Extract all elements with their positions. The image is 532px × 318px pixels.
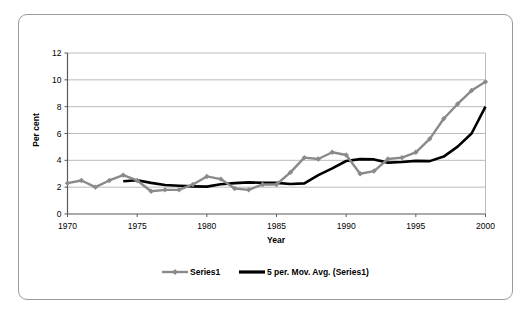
y-tick-labels: 024681012	[52, 48, 62, 219]
y-tick-label: 6	[57, 129, 62, 139]
x-tick-label: 1970	[58, 221, 77, 231]
legend-label: Series1	[190, 267, 221, 277]
y-tick-label: 10	[52, 75, 62, 85]
series-series1	[68, 82, 486, 191]
chart-legend: Series15 per. Mov. Avg. (Series1)	[162, 267, 369, 277]
x-tick-label: 1985	[267, 221, 286, 231]
legend-item[interactable]: Series1	[162, 267, 221, 277]
series1-marker	[65, 180, 70, 185]
y-tick-label: 12	[52, 48, 62, 58]
screenshot-root: 024681012 1970197519801985199019952000 P…	[0, 0, 532, 318]
x-tick-label: 1980	[197, 221, 216, 231]
legend-label: 5 per. Mov. Avg. (Series1)	[267, 267, 369, 277]
gridlines	[68, 53, 486, 187]
series-moving-average	[123, 107, 485, 187]
legend-marker-diamond	[172, 269, 178, 275]
y-tick-label: 4	[57, 155, 62, 165]
y-axis-title: Per cent	[31, 113, 41, 147]
x-tick-labels: 1970197519801985199019952000	[58, 221, 495, 231]
moving-average-line	[123, 107, 485, 187]
x-tick-label: 1975	[128, 221, 147, 231]
series1-line	[68, 82, 486, 191]
y-tick-label: 2	[57, 182, 62, 192]
x-tick-label: 1995	[406, 221, 425, 231]
x-axis-title: Year	[267, 235, 286, 245]
x-tick-label: 2000	[476, 221, 495, 231]
series1-marker	[162, 187, 167, 192]
legend-item[interactable]: 5 per. Mov. Avg. (Series1)	[239, 267, 369, 277]
y-tick-label: 8	[57, 102, 62, 112]
line-chart: 024681012 1970197519801985199019952000 P…	[0, 0, 532, 318]
axes	[65, 53, 486, 217]
x-tick-label: 1990	[337, 221, 356, 231]
y-tick-label: 0	[57, 209, 62, 219]
